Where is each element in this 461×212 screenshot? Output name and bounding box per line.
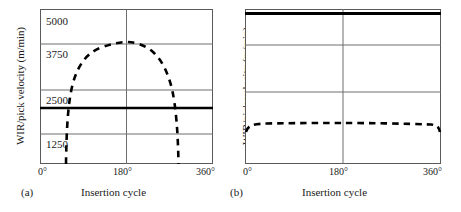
panel-b-plot-area	[245, 9, 441, 164]
panel-a-xtick-360: 360°	[196, 166, 215, 177]
panel-a-ytick-5000: 5000	[46, 15, 68, 27]
panel-a-x-axis-label: Insertion cycle	[81, 186, 146, 199]
panel-a-y-axis-label: WIR/pick velocity (m/min)	[12, 6, 28, 166]
panel-a-ytick-3750: 3750	[46, 48, 68, 60]
panel-b-xtick-180: 180°	[329, 166, 348, 177]
panel-a: WIR/pick velocity (m/min) 5000 3750 2500…	[0, 0, 228, 212]
panel-b-plot-svg	[245, 9, 441, 164]
panel-b-caption: (b)	[230, 186, 243, 199]
panel-b-xtick-0: 0°	[243, 166, 252, 177]
panel-a-series-pick-velocity-dashed	[66, 42, 179, 164]
panel-b: WIR/pick velocity (m/min) 0° 180° 360° I…	[228, 0, 461, 212]
figure-two-panel-chart: WIR/pick velocity (m/min) 5000 3750 2500…	[0, 0, 461, 212]
panel-b-x-axis-label: Insertion cycle	[302, 186, 367, 199]
panel-a-xtick-180: 180°	[113, 166, 132, 177]
panel-a-ytick-1250: 1250	[46, 138, 68, 150]
panel-a-plot-area: 5000 3750 2500 1250	[40, 9, 213, 164]
panel-b-xtick-360: 360°	[423, 166, 442, 177]
panel-a-ytick-2500: 2500	[46, 94, 68, 106]
panel-a-caption: (a)	[21, 186, 33, 199]
panel-a-xtick-0: 0°	[38, 166, 47, 177]
